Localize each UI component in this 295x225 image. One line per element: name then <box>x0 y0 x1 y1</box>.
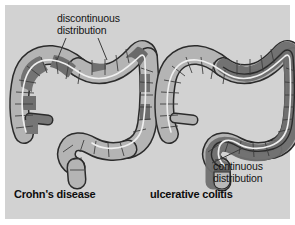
caption-ulcerative-colitis: ulcerative colitis <box>150 188 233 200</box>
figure-root: discontinuous distribution continuous di… <box>0 0 295 225</box>
annotation-discontinuous-distribution: discontinuous distribution <box>57 12 120 36</box>
annotation-continuous-line2: distribution <box>213 172 263 184</box>
crohns-colon-diagram <box>15 46 153 180</box>
annotation-discontinuous-line1: discontinuous <box>57 12 120 24</box>
caption-crohns-disease: Crohn's disease <box>14 188 96 200</box>
annotation-discontinuous-line2: distribution <box>57 24 120 36</box>
leader-discontinuous-right <box>98 38 107 60</box>
annotation-continuous-line1: continuous <box>213 160 263 172</box>
annotation-continuous-distribution: continuous distribution <box>213 160 263 184</box>
